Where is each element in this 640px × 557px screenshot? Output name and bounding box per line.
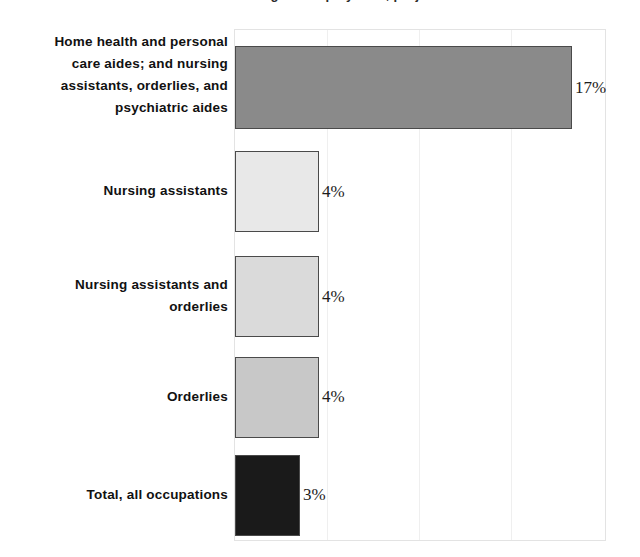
- bar-home-health-aides[interactable]: [235, 46, 572, 129]
- category-label-line: Nursing assistants: [4, 180, 228, 202]
- value-label-nursing-assistants: 4%: [322, 182, 345, 202]
- category-label-line: assistants, orderlies, and: [4, 75, 228, 97]
- chart-title: Percent change in employment, projected: [0, 0, 640, 2]
- category-label-line: psychiatric aides: [4, 97, 228, 119]
- category-label-line: Nursing assistants and: [4, 274, 228, 296]
- value-label-total-all-occupations: 3%: [303, 485, 326, 505]
- category-label-line: orderlies: [4, 296, 228, 318]
- category-label-line: Orderlies: [4, 386, 228, 408]
- value-label-orderlies: 4%: [322, 387, 345, 407]
- category-label-line: Total, all occupations: [4, 484, 228, 506]
- category-label-orderlies: Orderlies: [4, 386, 228, 408]
- value-label-nursing-assistants-and-orderlies: 4%: [322, 287, 345, 307]
- bar-total-all-occupations[interactable]: [235, 455, 300, 536]
- plot-area: [234, 29, 606, 541]
- category-label-line: care aides; and nursing: [4, 53, 228, 75]
- bar-nursing-assistants[interactable]: [235, 151, 319, 232]
- category-label-line: Home health and personal: [4, 31, 228, 53]
- bar-nursing-assistants-and-orderlies[interactable]: [235, 256, 319, 337]
- value-label-home-health-aides: 17%: [575, 78, 606, 98]
- category-label-total-all-occupations: Total, all occupations: [4, 484, 228, 506]
- bar-chart: Percent change in employment, projected …: [0, 0, 640, 557]
- category-label-home-health-aides: Home health and personal care aides; and…: [4, 31, 228, 119]
- category-label-nursing-assistants: Nursing assistants: [4, 180, 228, 202]
- bar-orderlies[interactable]: [235, 357, 319, 438]
- category-label-nursing-assistants-and-orderlies: Nursing assistants and orderlies: [4, 274, 228, 318]
